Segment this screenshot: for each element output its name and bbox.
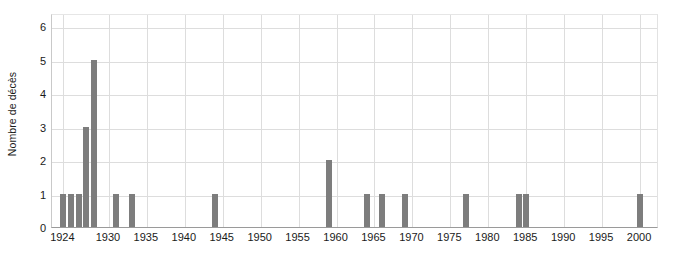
y-tick-label: 3 <box>6 122 46 134</box>
gridline-vertical <box>147 15 148 227</box>
bar <box>60 194 66 227</box>
x-tick-label: 1995 <box>589 231 613 243</box>
gridline-vertical <box>337 15 338 227</box>
x-tick-label: 1924 <box>50 231 74 243</box>
y-tick-label: 1 <box>6 189 46 201</box>
x-tick-label: 1965 <box>361 231 385 243</box>
bar <box>326 160 332 227</box>
gridline-vertical <box>488 15 489 227</box>
x-tick-label: 1990 <box>551 231 575 243</box>
bar <box>68 194 74 227</box>
x-axis-tick-labels: 1924193019351940194519501955196019651970… <box>51 231 658 251</box>
gridline-vertical <box>564 15 565 227</box>
y-tick-label: 6 <box>6 21 46 33</box>
bar <box>637 194 643 227</box>
gridline-horizontal <box>52 62 657 63</box>
bar <box>516 194 522 227</box>
x-tick-label: 1970 <box>399 231 423 243</box>
x-tick-label: 1935 <box>134 231 158 243</box>
x-tick-label: 1940 <box>172 231 196 243</box>
bar <box>364 194 370 227</box>
bar <box>212 194 218 227</box>
x-tick-label: 1930 <box>96 231 120 243</box>
gridline-vertical <box>602 15 603 227</box>
gridline-vertical <box>109 15 110 227</box>
bar <box>83 127 89 227</box>
gridline-horizontal <box>52 95 657 96</box>
x-tick-label: 1945 <box>209 231 233 243</box>
x-tick-label: 1955 <box>285 231 309 243</box>
gridline-vertical <box>261 15 262 227</box>
y-tick-label: 4 <box>6 88 46 100</box>
y-tick-label: 5 <box>6 55 46 67</box>
bar <box>523 194 529 227</box>
gridline-horizontal <box>52 162 657 163</box>
bar <box>76 194 82 227</box>
gridline-horizontal <box>52 28 657 29</box>
x-tick-label: 1950 <box>247 231 271 243</box>
bar <box>379 194 385 227</box>
x-tick-label: 1975 <box>437 231 461 243</box>
y-axis-tick-labels: 0123456 <box>0 14 46 228</box>
bar <box>463 194 469 227</box>
bar <box>113 194 119 227</box>
x-tick-label: 1985 <box>513 231 537 243</box>
bar <box>129 194 135 227</box>
x-tick-label: 1960 <box>323 231 347 243</box>
x-tick-label: 2000 <box>627 231 651 243</box>
gridline-vertical <box>374 15 375 227</box>
x-tick-label: 1980 <box>475 231 499 243</box>
y-tick-label: 2 <box>6 155 46 167</box>
gridline-vertical <box>185 15 186 227</box>
gridline-horizontal <box>52 196 657 197</box>
plot-area <box>51 14 658 228</box>
gridline-vertical <box>412 15 413 227</box>
y-tick-label: 0 <box>6 222 46 234</box>
gridline-vertical <box>450 15 451 227</box>
gridline-vertical <box>223 15 224 227</box>
bar <box>402 194 408 227</box>
gridline-vertical <box>299 15 300 227</box>
bar <box>91 60 97 227</box>
gridline-horizontal <box>52 129 657 130</box>
bar-chart: Nombre de décès 0123456 1924193019351940… <box>0 0 675 259</box>
